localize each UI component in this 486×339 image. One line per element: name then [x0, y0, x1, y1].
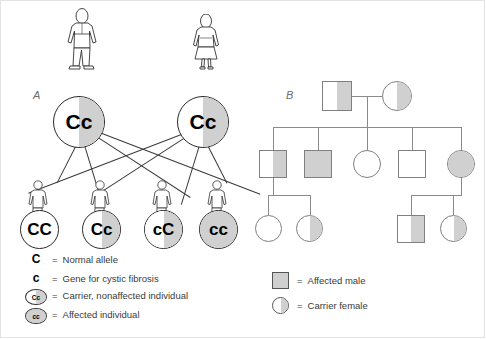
legend-text: Normal allele [63, 254, 118, 265]
pedigree-gen3-female-carrier [440, 215, 467, 242]
shading-half [337, 82, 351, 110]
legend-affected-genotype: cc [26, 309, 46, 323]
drop-line [268, 195, 269, 215]
pedigree-gen2-male-unaffected [398, 150, 426, 178]
equals-sign: = [297, 300, 303, 311]
allele-symbol: c [26, 271, 46, 285]
drop-line [461, 127, 462, 150]
legend-affected-male-icon [272, 272, 289, 289]
drop-line [318, 127, 319, 150]
sibship-line-gen3-right [411, 195, 462, 196]
drop-line [273, 127, 274, 150]
offspring-genotype-label: Cc [83, 211, 120, 248]
offspring-genotype-circle: cc [199, 210, 238, 249]
shading-half [273, 151, 286, 177]
legend-row-carrier-female: = Carrier female [297, 300, 368, 311]
legend-text: Gene for cystic fibrosis [63, 273, 159, 284]
male-figure [62, 8, 102, 70]
descent-line [461, 178, 462, 195]
pedigree-gen2-female-unaffected [353, 150, 381, 178]
legend-carrier-genotype: Cc [26, 290, 46, 304]
equals-sign: = [52, 273, 58, 284]
parent-genotype-label: Cc [54, 97, 104, 147]
shading-full [273, 273, 288, 288]
shading-half [454, 216, 467, 241]
parent-genotype-circle: Cc [53, 96, 105, 148]
shading-full [448, 151, 474, 177]
female-figure [188, 14, 224, 70]
legend-row-normal-allele: C = Normal allele [26, 252, 118, 266]
parent-genotype-label: Cc [178, 97, 228, 147]
legend-text: Carrier female [308, 300, 368, 311]
pedigree-gen1-male [322, 81, 352, 111]
offspring-genotype-circle: Cc [82, 210, 121, 249]
shading-half [281, 298, 289, 313]
descent-line [367, 96, 368, 128]
pedigree-gen3-female-carrier [296, 215, 323, 242]
shading-half [397, 82, 411, 110]
pedigree-gen3-female-unaffected [255, 215, 282, 242]
parent-genotype-circle: Cc [177, 96, 229, 148]
drop-line [453, 195, 454, 215]
offspring-genotype-circle: CC [20, 210, 59, 249]
offspring-genotype-label: cC [145, 211, 182, 248]
pedigree-gen2-female-affected [447, 150, 475, 178]
pedigree-gen1-female [382, 81, 412, 111]
legend-text: Affected male [308, 275, 366, 286]
drop-line [411, 195, 412, 215]
legend-text: Carrier, nonaffected individual [63, 290, 189, 301]
pedigree-gen2-male-carrier [259, 150, 287, 178]
legend-carrier-circle-icon: Cc [25, 289, 47, 305]
drop-line [412, 127, 413, 150]
legend-affected-circle-icon: cc [25, 308, 47, 324]
shading-full [305, 151, 331, 177]
legend-carrier-female-icon [272, 297, 289, 314]
descent-line [273, 178, 274, 195]
legend-text: Affected individual [63, 309, 140, 320]
equals-sign: = [52, 290, 58, 301]
legend-row-carrier: = Carrier, nonaffected individual [52, 290, 188, 301]
pedigree-gen3-male-carrier [397, 215, 425, 243]
shading-half [310, 216, 323, 241]
drop-line [310, 195, 311, 215]
offspring-genotype-label: CC [21, 211, 58, 248]
equals-sign: = [52, 254, 58, 265]
sibship-line-gen3-left [268, 195, 310, 196]
equals-sign: = [52, 309, 58, 320]
allele-symbol: C [26, 252, 46, 266]
panel-b-label: B [286, 89, 293, 101]
equals-sign: = [297, 275, 303, 286]
offspring-genotype-circle: cC [144, 210, 183, 249]
shading-half [411, 216, 424, 242]
legend-row-affected: = Affected individual [52, 309, 140, 320]
legend-row-affected-male: = Affected male [297, 275, 365, 286]
panel-a-label: A [33, 89, 40, 101]
legend-row-cf-gene: c = Gene for cystic fibrosis [26, 271, 159, 285]
pedigree-gen2-male-affected [304, 150, 332, 178]
drop-line [367, 127, 368, 150]
offspring-genotype-label: cc [200, 211, 237, 248]
